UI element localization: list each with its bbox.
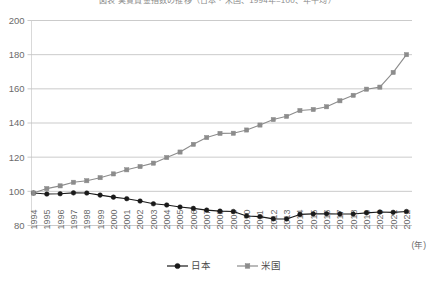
data-point-marker — [205, 135, 209, 139]
data-point-marker — [338, 99, 342, 103]
data-point-marker — [404, 209, 409, 214]
data-point-marker — [71, 180, 75, 184]
data-point-marker — [338, 212, 343, 217]
data-point-marker — [204, 208, 209, 213]
data-point-marker — [298, 212, 303, 217]
data-point-marker — [164, 203, 169, 208]
x-axis-label: 2011 — [255, 210, 265, 229]
data-point-marker — [391, 70, 395, 74]
data-point-marker — [245, 128, 249, 132]
data-point-marker — [311, 212, 316, 217]
data-point-marker — [178, 205, 183, 210]
chart-container: 図表 実質賃金指数の推移（日本・米国、1994年=100、年平均） 801001… — [0, 0, 435, 281]
data-point-marker — [151, 161, 155, 165]
data-point-marker — [391, 210, 396, 215]
data-point-marker — [138, 164, 142, 168]
chart-legend: 日本米国 — [167, 260, 281, 271]
data-point-marker — [111, 195, 116, 200]
data-point-marker — [111, 172, 115, 176]
data-point-marker — [58, 191, 63, 196]
data-point-marker — [271, 217, 276, 222]
data-point-marker — [351, 93, 355, 97]
data-point-marker — [98, 193, 103, 198]
y-axis-label: 200 — [9, 15, 25, 26]
data-point-marker — [231, 131, 235, 135]
x-axis-unit-label: (年) — [412, 240, 427, 250]
x-axis-unit-label-group: (年) — [412, 240, 427, 250]
x-axis-label: 1994 — [29, 209, 39, 229]
x-axis-label: 2001 — [122, 209, 132, 229]
x-axis-label: 2003 — [149, 209, 159, 229]
data-point-marker — [258, 123, 262, 127]
series-lines-group — [34, 55, 407, 219]
legend-marker-1 — [175, 263, 180, 268]
y-axis-label: 120 — [9, 152, 25, 163]
data-point-marker — [151, 202, 156, 207]
data-point-marker — [324, 211, 329, 216]
data-point-marker — [178, 150, 182, 154]
y-axis-label: 180 — [9, 49, 25, 60]
data-point-marker — [324, 105, 328, 109]
data-point-marker — [124, 196, 129, 201]
legend-label-1: 日本 — [191, 260, 211, 271]
y-axis-label: 140 — [9, 117, 25, 128]
legend-label-2: 米国 — [261, 260, 281, 271]
data-point-marker — [404, 53, 408, 57]
x-axis-label: 1998 — [82, 209, 92, 229]
data-point-marker — [231, 209, 236, 214]
x-axis-label: 1999 — [96, 209, 106, 229]
data-point-marker — [45, 187, 49, 191]
x-axis-label: 2000 — [109, 209, 119, 229]
data-point-marker — [378, 210, 383, 215]
x-axis-label: 1995 — [42, 209, 52, 229]
data-point-marker — [85, 179, 89, 183]
data-point-marker — [258, 214, 263, 219]
y-axis-label: 80 — [14, 220, 25, 231]
data-point-marker — [71, 191, 76, 196]
data-point-marker — [191, 142, 195, 146]
legend-marker-2 — [245, 264, 250, 269]
data-point-marker — [31, 191, 35, 195]
data-point-marker — [84, 191, 89, 196]
x-axis-label: 2006 — [189, 209, 199, 229]
data-point-marker — [218, 131, 222, 135]
x-axis-label: 2005 — [175, 209, 185, 229]
data-point-marker — [138, 199, 143, 204]
data-point-marker — [45, 192, 50, 197]
data-point-marker — [351, 212, 356, 217]
line-chart-plot: 80100120140160180200 1994199519961997199… — [0, 0, 435, 281]
data-point-marker — [298, 108, 302, 112]
data-point-marker — [244, 214, 249, 219]
data-point-marker — [284, 217, 289, 222]
y-axis-label: 160 — [9, 83, 25, 94]
x-axis-label: 1997 — [69, 209, 79, 229]
data-point-marker — [58, 184, 62, 188]
data-point-marker — [364, 211, 369, 216]
series-line-2 — [34, 55, 407, 193]
data-point-marker — [285, 114, 289, 118]
data-point-marker — [378, 85, 382, 89]
data-point-marker — [125, 168, 129, 172]
data-point-marker — [271, 117, 275, 121]
y-axis-labels-group: 80100120140160180200 — [9, 15, 25, 231]
series-markers-group — [31, 53, 409, 222]
data-point-marker — [165, 155, 169, 159]
data-point-marker — [218, 209, 223, 214]
x-axis-label: 2002 — [135, 209, 145, 229]
x-axis-label: 2004 — [162, 209, 172, 229]
data-point-marker — [98, 176, 102, 180]
y-axis-label: 100 — [9, 186, 25, 197]
data-point-marker — [311, 107, 315, 111]
data-point-marker — [364, 87, 368, 91]
y-tickmarks-group — [28, 21, 32, 226]
data-point-marker — [191, 206, 196, 211]
x-axis-label: 1996 — [56, 209, 66, 229]
x-axis-label: 2010 — [242, 209, 252, 229]
